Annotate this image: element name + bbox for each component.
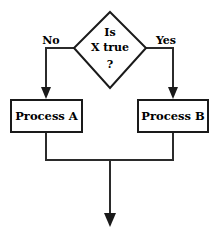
flowchart-svg: Is X true ? Process A Process B No Yes	[0, 0, 218, 233]
node-process-b[interactable]: Process B	[138, 100, 208, 132]
edge-no-arrowhead	[41, 87, 51, 99]
process-a-label: Process A	[15, 109, 79, 123]
process-b-label: Process B	[141, 109, 205, 123]
node-process-a[interactable]: Process A	[11, 100, 82, 132]
decision-text-line-1: Is	[104, 26, 115, 39]
node-decision[interactable]: Is X true ?	[74, 12, 146, 88]
edge-yes	[146, 48, 178, 99]
edge-no	[41, 48, 74, 99]
edge-merge	[46, 132, 173, 227]
edge-no-path	[46, 48, 74, 91]
edge-exit-arrowhead	[104, 213, 116, 227]
flowchart-canvas: Is X true ? Process A Process B No Yes	[0, 0, 218, 233]
decision-text-line-3: ?	[107, 58, 113, 71]
decision-text-line-2: X true	[91, 41, 129, 54]
edge-yes-arrowhead	[168, 87, 178, 99]
edge-merge-path	[46, 132, 173, 160]
edge-label-no: No	[42, 34, 59, 47]
edge-label-yes: Yes	[155, 34, 176, 47]
edge-yes-path	[146, 48, 173, 91]
